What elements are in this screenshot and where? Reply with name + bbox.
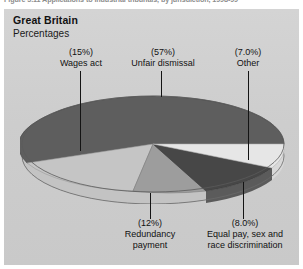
label-other: (7.0%) Other <box>203 47 293 69</box>
page-subtitle: Percentages <box>13 28 69 39</box>
label-other-percent: (7.0%) <box>203 47 293 58</box>
figure-caption-strip: Figure 5.11 Applications to industrial t… <box>0 0 303 9</box>
label-equal-pay: (8.0%) Equal pay, sex and race discrimin… <box>190 218 300 251</box>
label-redundancy-payment: (12%) Redundancy payment <box>102 218 198 251</box>
label-redundancy-payment-name-line1: Redundancy <box>102 229 198 240</box>
label-equal-pay-percent: (8.0%) <box>190 218 300 229</box>
label-unfair-dismissal-percent: (57%) <box>113 47 213 58</box>
figure-caption-text: Figure 5.11 Applications to industrial t… <box>4 0 238 4</box>
label-redundancy-payment-percent: (12%) <box>102 218 198 229</box>
leader-line-redundancy-payment <box>150 193 151 219</box>
label-equal-pay-name-line1: Equal pay, sex and <box>190 229 300 240</box>
label-unfair-dismissal-name: Unfair dismissal <box>113 58 213 69</box>
leader-line-other <box>248 71 249 160</box>
label-equal-pay-name-line2: race discrimination <box>190 240 300 251</box>
label-redundancy-payment-name-line2: payment <box>102 240 198 251</box>
leader-line-equal-pay <box>243 182 244 219</box>
pie-svg <box>20 88 286 204</box>
label-unfair-dismissal: (57%) Unfair dismissal <box>113 47 213 69</box>
pie-chart <box>20 88 286 204</box>
label-other-name: Other <box>203 58 293 69</box>
page-title: Great Britain <box>13 14 78 26</box>
chart-figure: Figure 5.11 Applications to industrial t… <box>0 0 303 269</box>
leader-line-wages-act <box>80 71 81 151</box>
leader-line-unfair-dismissal <box>161 71 162 97</box>
